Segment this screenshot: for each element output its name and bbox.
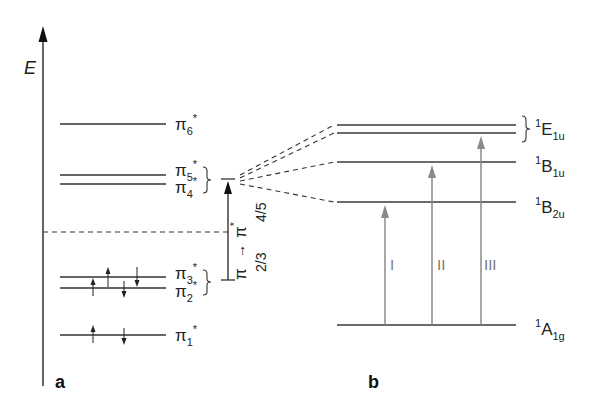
transition-label: III	[484, 256, 497, 273]
transition-to-symbol: π*	[228, 221, 250, 238]
state-A1g: 1A1g	[337, 317, 565, 342]
orbital-pi4: π4*	[60, 175, 198, 200]
correlation-line-B2u	[240, 184, 334, 202]
state-E1u: 1E1u	[337, 116, 565, 142]
state-label: 1A1g	[535, 317, 565, 342]
orbital-label: π2*	[175, 279, 198, 304]
degenerate-brace-pi4-pi5	[203, 167, 211, 193]
to-orbitals-label: 4/5	[253, 202, 269, 222]
panel-b: 1E1u 1B1u 1B2u 1A1g I II	[337, 116, 565, 392]
orbital-pi2: π2*	[60, 278, 198, 304]
correlation-line-E1u-a	[240, 125, 334, 175]
orbital-label: π6*	[175, 112, 198, 137]
from-orbitals-label: 2/3	[253, 252, 269, 272]
transition-III: III	[477, 136, 497, 325]
transition-from-symbol: π	[231, 268, 250, 280]
orbital-label: π1*	[175, 323, 198, 348]
state-label: 1B2u	[535, 195, 565, 220]
panel-a: E π6* π5* π4*	[24, 26, 269, 392]
transition-II: II	[428, 165, 445, 325]
transition-label: II	[437, 256, 445, 273]
panel-a-label: a	[55, 372, 66, 392]
pi-pi-star-transition: π → π* 2/3 4/5	[221, 179, 269, 280]
correlation-line-B1u	[240, 162, 334, 181]
transition-arrowhead-icon	[477, 136, 485, 149]
orbital-pi6: π6*	[60, 112, 198, 137]
transition-I: I	[381, 205, 394, 325]
state-label: 1B1u	[535, 154, 565, 179]
transition-arrowhead-icon	[381, 205, 389, 218]
transition-arrow-glyph: →	[232, 244, 248, 258]
state-label: 1E1u	[535, 117, 565, 142]
degenerate-brace-E1u	[522, 116, 530, 142]
transition-arrowhead-icon	[428, 165, 436, 178]
energy-axis-arrowhead-icon	[39, 26, 48, 42]
transition-label: I	[390, 256, 394, 273]
electron-spin-down-icon	[122, 328, 127, 345]
transition-arrowhead-icon	[224, 181, 232, 194]
electron-spin-up-icon	[91, 325, 96, 343]
degenerate-brace-pi2-pi3	[203, 270, 211, 295]
electron-spin-down-icon	[122, 281, 127, 298]
state-B2u: 1B2u	[337, 195, 565, 220]
correlation-lines	[240, 125, 334, 202]
panel-b-label: b	[368, 372, 379, 392]
energy-axis: E	[24, 26, 48, 386]
energy-level-diagram: E π6* π5* π4*	[0, 0, 599, 415]
orbital-label: π4*	[175, 175, 198, 200]
transition-label: π → π*	[228, 221, 250, 280]
orbital-pi1: π1*	[60, 323, 198, 348]
electron-spin-up-icon	[91, 278, 96, 296]
state-B1u: 1B1u	[337, 154, 565, 179]
energy-axis-label: E	[24, 58, 37, 78]
